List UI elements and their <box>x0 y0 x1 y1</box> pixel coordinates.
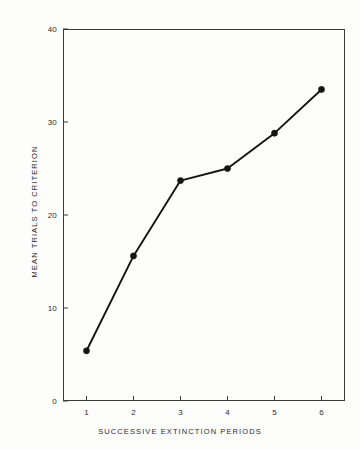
y-tick-label: 0 <box>31 397 57 406</box>
y-tick-label: 40 <box>31 25 57 34</box>
chart-figure: 010203040 123456 SUCCESSIVE EXTINCTION P… <box>0 0 360 449</box>
plot-area-frame <box>63 29 345 401</box>
x-tick-label: 4 <box>218 408 238 417</box>
x-tick-label: 1 <box>77 408 97 417</box>
x-tick-label: 6 <box>312 408 332 417</box>
x-tick-label: 3 <box>171 408 191 417</box>
x-tick-label: 5 <box>265 408 285 417</box>
x-tick-label: 2 <box>124 408 144 417</box>
x-axis-title: SUCCESSIVE EXTINCTION PERIODS <box>0 427 360 436</box>
y-axis-title: MEAN TRIALS TO CRITERION <box>30 112 39 312</box>
